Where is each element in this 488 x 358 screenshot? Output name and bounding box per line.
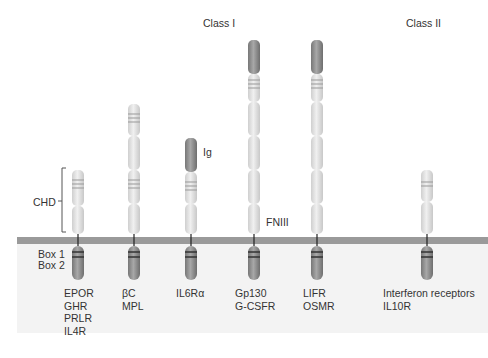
class-i-label: Class I (203, 17, 235, 30)
receptor-names-bc: βCMPL (122, 287, 144, 312)
receptor-names-il6ra: IL6Rα (176, 287, 204, 300)
box2-label: Box 2 (38, 259, 65, 272)
receptor-epor (72, 170, 84, 280)
ig-label: Ig (203, 146, 212, 159)
receptor-interferon (421, 170, 433, 280)
receptor-names-interferon: Interferon receptorsIL10R (383, 287, 475, 312)
receptor-names-lifr: LIFROSMR (303, 287, 335, 312)
receptor-names-epor: EPORGHRPRLRIL4R (64, 287, 94, 337)
receptor-gp130 (248, 40, 260, 280)
receptor-lifr (311, 40, 323, 280)
fniii-label: FNIII (266, 216, 289, 229)
chd-bracket (58, 168, 66, 232)
chd-label: CHD (33, 196, 56, 209)
receptor-names-gp130: Gp130G-CSFR (235, 287, 275, 312)
class-ii-label: Class II (406, 17, 441, 30)
receptor-il6ra (185, 138, 197, 280)
receptor-bc (128, 104, 140, 280)
